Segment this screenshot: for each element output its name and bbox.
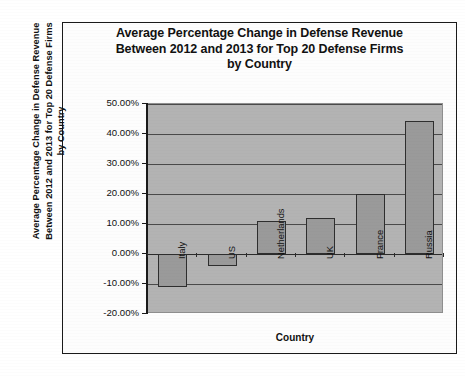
gridline xyxy=(148,164,442,165)
x-axis-category-label: France xyxy=(374,230,385,259)
x-axis-tick-mark xyxy=(147,253,148,257)
chart-title-line-2: Between 2012 and 2013 for Top 20 Defense… xyxy=(62,42,457,58)
gridline xyxy=(148,224,442,225)
y-axis-tick-mark xyxy=(142,313,147,314)
y-axis-tick-label: 10.00% xyxy=(81,217,139,228)
chart-title: Average Percentage Change in Defense Rev… xyxy=(62,26,457,73)
x-axis-tick-mark xyxy=(344,253,345,257)
y-axis-tick-label: -20.00% xyxy=(81,307,139,318)
y-axis-tick-label: -10.00% xyxy=(81,277,139,288)
y-axis-tick-label: 40.00% xyxy=(81,127,139,138)
y-axis-tick-mark xyxy=(142,163,147,164)
y-axis-tick-mark xyxy=(142,103,147,104)
chart-title-line-3: by Country xyxy=(62,57,457,73)
x-axis-category-label: Russia xyxy=(423,230,434,259)
y-axis-tick-label: 30.00% xyxy=(81,157,139,168)
y-axis-tick-mark xyxy=(142,193,147,194)
y-axis-tick-mark xyxy=(142,223,147,224)
y-axis-tick-mark xyxy=(142,133,147,134)
y-axis-tick-label: 0.00% xyxy=(81,247,139,258)
x-axis-category-label: US xyxy=(226,246,237,259)
y-axis-tick-mark xyxy=(142,283,147,284)
x-axis-tick-mark xyxy=(295,253,296,257)
x-axis-tick-mark xyxy=(246,253,247,257)
gridline xyxy=(148,194,442,195)
y-axis-tick-label: 50.00% xyxy=(81,97,139,108)
x-axis-category-label: Italy xyxy=(176,242,187,259)
x-axis-category-label: UK xyxy=(324,246,335,259)
gridline xyxy=(148,284,442,285)
x-axis-tick-mark xyxy=(443,253,444,257)
x-axis-category-label: Netherlands xyxy=(275,208,286,259)
chart-title-line-1: Average Percentage Change in Defense Rev… xyxy=(62,26,457,42)
y-axis-tick-label: 20.00% xyxy=(81,187,139,198)
x-axis-tick-mark xyxy=(196,253,197,257)
plot-area xyxy=(147,103,443,313)
x-axis-title: Country xyxy=(147,332,443,343)
x-axis-tick-mark xyxy=(394,253,395,257)
gridline xyxy=(148,134,442,135)
gridline xyxy=(148,104,442,105)
